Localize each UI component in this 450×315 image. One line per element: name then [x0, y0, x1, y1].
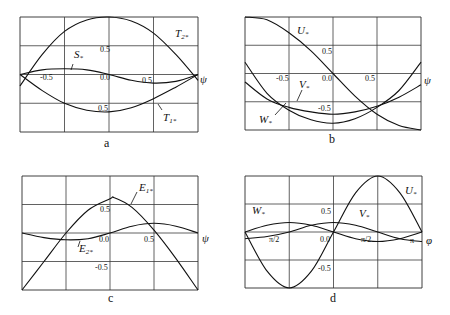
axis-label: φ — [426, 234, 432, 246]
tick-label: π/2 — [269, 235, 279, 244]
series-label-e2: E2* — [78, 242, 93, 256]
tick-label: 0.5 — [100, 205, 110, 214]
figure: -0.5 0.0 0.5 0.5 0.5 T2* S* T1* ψ a -0.5… — [0, 0, 450, 315]
tick-label: 0.5 — [365, 74, 375, 83]
tick-label: 0.5 — [142, 76, 152, 85]
panel-b: -0.5 0.0 0.5 0.5 -0.5 U* V* W* ψ b — [245, 17, 431, 146]
panel-caption: d — [330, 291, 336, 305]
series-label-v: V* — [359, 207, 370, 221]
tick-label: 0.5 — [321, 207, 331, 216]
axis-label: ψ — [424, 74, 431, 86]
leader-line — [158, 104, 162, 110]
tick-label: -0.5 — [318, 264, 331, 273]
tick-label: 0.5 — [100, 45, 110, 54]
axis-label: ψ — [202, 232, 209, 244]
tick-label: -0.5 — [95, 263, 108, 272]
series-label-u: U* — [297, 24, 309, 38]
panel-a: -0.5 0.0 0.5 0.5 0.5 T2* S* T1* ψ a — [20, 17, 207, 150]
leader-line — [297, 90, 302, 101]
panel-c: 0.5 0.0 0.5 -0.5 E1* E2* ψ c — [22, 176, 209, 305]
series-label-u: U* — [405, 184, 417, 198]
tick-label: 0.5 — [98, 104, 108, 113]
series-label-w: W* — [252, 204, 265, 218]
tick-label: 0.5 — [144, 235, 154, 244]
series-label-v: V* — [299, 78, 310, 92]
panel-caption: a — [104, 136, 110, 150]
tick-label: 0.0 — [322, 74, 332, 83]
tick-label: 0.0 — [320, 235, 330, 244]
tick-label: 0.0 — [99, 235, 109, 244]
leader-line — [131, 192, 137, 204]
tick-label: 0.5 — [322, 47, 332, 56]
tick-label: 0.0 — [100, 73, 110, 82]
tick-label: -0.5 — [318, 104, 331, 113]
axis-label: ψ — [200, 73, 207, 85]
series-label-t1: T1* — [163, 111, 177, 125]
tick-label: -0.5 — [276, 74, 289, 83]
series-label-s: S* — [74, 48, 84, 62]
tick-label: π/2 — [361, 235, 371, 244]
series-label-t2: T2* — [175, 27, 189, 41]
tick-label: -0.5 — [40, 73, 53, 82]
panel-caption: b — [329, 132, 335, 146]
tick-label: π — [410, 236, 414, 245]
series-label-e1: E1* — [138, 181, 153, 195]
series-label-w: W* — [259, 113, 272, 127]
panel-d: 0.5 0.0 -0.5 π/2 π/2 π U* V* W* φ d — [245, 176, 432, 305]
panel-caption: c — [108, 291, 113, 305]
